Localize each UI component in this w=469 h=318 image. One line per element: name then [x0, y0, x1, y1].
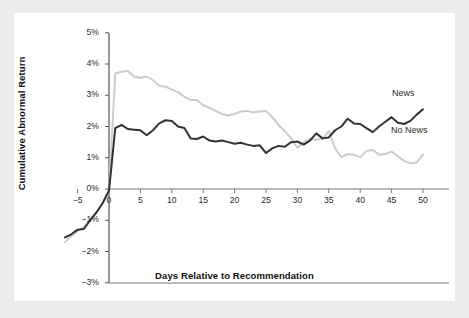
x-tick-label: 5: [125, 195, 155, 205]
x-tick-label: 40: [345, 195, 375, 205]
series-lines: [65, 71, 423, 242]
y-tick-label: −1%: [59, 214, 99, 224]
x-tick-label: 20: [220, 195, 250, 205]
y-tick-label: 3%: [59, 89, 99, 99]
x-axis-title: Days Relative to Recommendation: [0, 270, 469, 281]
x-tick-marks: [78, 189, 423, 193]
series-label-no-news: No News: [391, 125, 428, 135]
axis-lines: [109, 33, 449, 283]
series-label-news: News: [392, 88, 415, 98]
x-tick-label: 10: [157, 195, 187, 205]
y-tick-label: 0%: [59, 183, 99, 193]
chart-page: 5%4%3%2%1%0%−1%−2%−3% −50510152025303540…: [0, 0, 469, 318]
y-tick-label: −2%: [59, 246, 99, 256]
y-axis-title: Cumulative Abnormal Return: [16, 39, 27, 209]
x-tick-label: 50: [408, 195, 438, 205]
x-tick-label: 35: [314, 195, 344, 205]
x-tick-label: 45: [377, 195, 407, 205]
x-tick-label: 15: [188, 195, 218, 205]
x-tick-label: 0: [94, 195, 124, 205]
x-tick-label: 25: [251, 195, 281, 205]
y-tick-label: 4%: [59, 58, 99, 68]
y-tick-label: 5%: [59, 27, 99, 37]
x-tick-label: 30: [282, 195, 312, 205]
x-tick-label: −5: [63, 195, 93, 205]
series-line-news: [65, 109, 423, 237]
series-line-no-news: [65, 71, 423, 242]
y-tick-label: 2%: [59, 121, 99, 131]
y-tick-label: 1%: [59, 152, 99, 162]
